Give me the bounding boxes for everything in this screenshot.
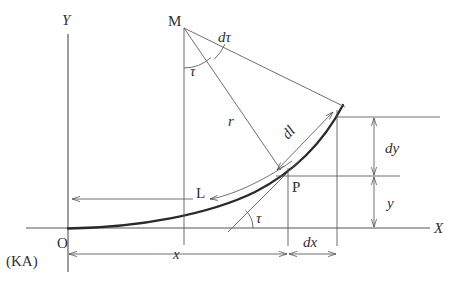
origin-alt-label: (KA) — [6, 253, 38, 270]
x-label: x — [172, 246, 180, 262]
x-axis-label: X — [433, 220, 444, 236]
tau-label-top: τ — [190, 63, 196, 79]
y-axis-label: Y — [62, 12, 72, 28]
axes-group — [26, 34, 430, 272]
point-p-label: P — [292, 179, 300, 195]
radius-line-r — [184, 28, 281, 170]
radius-line-r-plus-dr — [184, 28, 345, 107]
dy-label: dy — [385, 140, 400, 156]
center-point-label: M — [168, 13, 181, 29]
curve-path — [68, 105, 343, 229]
tau-label-bottom: τ — [256, 210, 262, 226]
tangent-line-at-p — [228, 160, 300, 232]
arc-length-label: L — [196, 185, 205, 201]
tau-arc-at-m — [184, 58, 211, 69]
y-label: y — [385, 195, 394, 211]
diagram-canvas: Y X O (KA) M P τ dτ r dl L τ dy y x dx — [0, 0, 465, 301]
arc-element-label: dl — [278, 123, 298, 142]
geometry-diagram: Y X O (KA) M P τ dτ r dl L τ dy y x dx — [0, 0, 465, 301]
d-tau-label: dτ — [218, 29, 232, 45]
dl-measure-arrow — [277, 112, 333, 170]
radius-label: r — [228, 113, 234, 129]
d-tau-arc — [214, 44, 225, 60]
origin-label: O — [57, 235, 68, 251]
dx-label: dx — [303, 234, 318, 250]
